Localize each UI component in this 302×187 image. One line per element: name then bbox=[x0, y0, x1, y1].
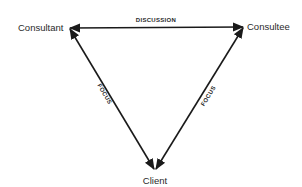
edge-label-focus-right: FOCUS bbox=[200, 85, 217, 107]
edge-label-discussion: DISCUSSION bbox=[136, 17, 176, 23]
edge-focus-left: FOCUS bbox=[70, 29, 154, 169]
node-consultee: Consultee bbox=[247, 21, 290, 32]
edge-focus-right: FOCUS bbox=[156, 28, 243, 169]
node-client: Client bbox=[143, 175, 168, 186]
triangle-diagram: DISCUSSION FOCUS FOCUS Consultant Consul… bbox=[0, 0, 302, 187]
node-consultant: Consultant bbox=[18, 22, 64, 33]
edge-discussion: DISCUSSION bbox=[70, 17, 243, 28]
